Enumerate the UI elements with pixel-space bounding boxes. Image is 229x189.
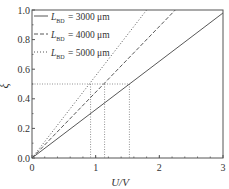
x-axis-label: U/V [111, 176, 130, 188]
y-tick-label: 1.0 [18, 5, 31, 16]
axis-ticks: 01230.00.20.40.60.81.0 [18, 5, 226, 174]
x-tick-label: 1 [93, 162, 98, 173]
y-tick-label: 0.4 [18, 93, 31, 104]
x-tick-label: 2 [157, 162, 162, 173]
legend: LBD = 3000 μmLBD = 4000 μmLBD = 5000 μm [34, 12, 110, 60]
chart: 01230.00.20.40.60.81.0 LBD = 3000 μmLBD … [0, 0, 229, 189]
y-tick-label: 0.8 [18, 34, 31, 45]
x-tick-label: 0 [30, 162, 35, 173]
y-axis-label: ξ [0, 83, 11, 89]
y-tick-label: 0.0 [18, 153, 31, 164]
legend-label: LBD = 4000 μm [50, 30, 110, 42]
y-tick-label: 0.2 [18, 123, 31, 134]
legend-label: LBD = 5000 μm [50, 48, 110, 60]
x-tick-label: 3 [221, 162, 226, 173]
legend-label: LBD = 3000 μm [50, 12, 110, 24]
y-tick-label: 0.6 [18, 64, 31, 75]
